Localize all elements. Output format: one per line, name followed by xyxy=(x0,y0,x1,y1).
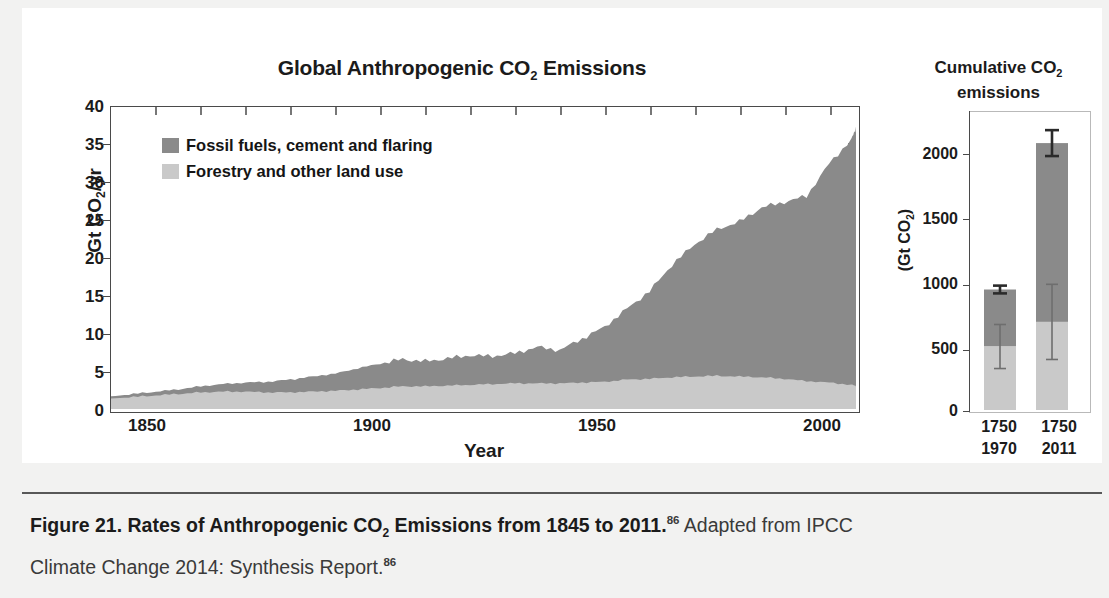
main-chart-title-part1: Global Anthropogenic CO xyxy=(278,56,530,79)
y-tick-label-30: 30 xyxy=(58,173,104,193)
x-label-bar-2-line1: 1750 xyxy=(1029,416,1089,438)
y-tick-label-10: 10 xyxy=(58,325,104,345)
right-y-tick-label-2000: 2000 xyxy=(906,145,958,163)
right-chart-title-part1: Cumulative CO xyxy=(935,58,1057,77)
y-tick-mark-15 xyxy=(102,296,110,297)
cumulative-bar-chart: Cumulative CO2 emissions (Gt CO2) 2000 1… xyxy=(884,8,1102,463)
main-chart-legend: Fossil fuels, cement and flaring Forestr… xyxy=(162,134,433,186)
legend-swatch-fossil-fuels xyxy=(162,138,179,153)
right-y-tick-label-0: 0 xyxy=(906,402,958,420)
right-y-tick-label-1500: 1500 xyxy=(906,210,958,228)
right-chart-x-labels: 1750 1970 1750 2011 xyxy=(969,416,1089,460)
right-chart-title: Cumulative CO2 emissions xyxy=(896,58,1101,103)
y-tick-label-35: 35 xyxy=(58,135,104,155)
x-label-bar-1: 1750 1970 xyxy=(969,416,1029,460)
y-tick-label-40: 40 xyxy=(58,97,104,117)
right-chart-title-line2: emissions xyxy=(957,83,1040,102)
right-chart-title-subscript: 2 xyxy=(1056,67,1062,79)
caption-part1: Figure 21. Rates of Anthropogenic CO xyxy=(30,514,382,536)
y-tick-label-25: 25 xyxy=(58,211,104,231)
caption-rest-line1: Adapted from IPCC xyxy=(679,514,852,536)
x-label-bar-1-line1: 1750 xyxy=(969,416,1029,438)
error-bar-total-1 xyxy=(993,286,1007,294)
y-tick-label-20: 20 xyxy=(58,249,104,269)
y-tick-mark-5 xyxy=(102,372,110,373)
y-tick-mark-30 xyxy=(102,182,110,183)
page-background: Global Anthropogenic CO2 Emissions Gt CO… xyxy=(0,0,1109,598)
bar-chart-svg xyxy=(970,112,1088,410)
legend-label-forestry: Forestry and other land use xyxy=(186,162,403,181)
top-tick-marks xyxy=(156,107,831,115)
legend-swatch-forestry xyxy=(162,164,179,179)
x-tick-label-1950: 1950 xyxy=(562,416,632,436)
main-area-chart: Global Anthropogenic CO2 Emissions Gt CO… xyxy=(22,8,902,463)
caption-reference-1: 86 xyxy=(667,514,680,526)
right-y-tick-label-500: 500 xyxy=(906,340,958,358)
caption-divider xyxy=(22,492,1102,494)
caption-reference-2: 86 xyxy=(383,556,396,568)
right-y-tick-label-1000: 1000 xyxy=(906,275,958,293)
caption-line2: Climate Change 2014: Synthesis Report. xyxy=(30,556,383,578)
legend-item-fossil-fuels: Fossil fuels, cement and flaring xyxy=(162,134,433,156)
main-chart-title-part2: Emissions xyxy=(537,56,646,79)
y-tick-mark-25 xyxy=(102,220,110,221)
right-plot-area xyxy=(969,111,1091,413)
legend-label-fossil-fuels: Fossil fuels, cement and flaring xyxy=(186,136,433,155)
y-tick-label-15: 15 xyxy=(58,287,104,307)
x-label-bar-2: 1750 2011 xyxy=(1029,416,1089,460)
figure-caption: Figure 21. Rates of Anthropogenic CO2 Em… xyxy=(30,505,1095,582)
figure-panel: Global Anthropogenic CO2 Emissions Gt CO… xyxy=(22,8,1102,463)
caption-bold-text: Figure 21. Rates of Anthropogenic CO2 Em… xyxy=(30,514,667,536)
main-chart-x-axis-label: Year xyxy=(110,440,858,462)
x-label-bar-1-line2: 1970 xyxy=(969,438,1029,460)
y-tick-label-5: 5 xyxy=(58,363,104,383)
y-tick-mark-10 xyxy=(102,334,110,335)
y-tick-mark-20 xyxy=(102,258,110,259)
caption-part2: Emissions from 1845 to 2011. xyxy=(389,514,666,536)
x-label-bar-2-line2: 2011 xyxy=(1029,438,1089,460)
main-chart-title: Global Anthropogenic CO2 Emissions xyxy=(202,56,722,83)
y-tick-label-0: 0 xyxy=(58,401,104,421)
x-tick-label-1850: 1850 xyxy=(112,416,182,436)
x-tick-label-1900: 1900 xyxy=(337,416,407,436)
x-tick-label-2000: 2000 xyxy=(787,416,857,436)
right-y-axis-line xyxy=(969,111,970,412)
legend-item-forestry: Forestry and other land use xyxy=(162,160,433,182)
y-tick-mark-35 xyxy=(102,144,110,145)
